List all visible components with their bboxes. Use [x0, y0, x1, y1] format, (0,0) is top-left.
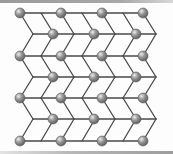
sphere-node-icon — [89, 29, 99, 39]
sphere-node-icon — [48, 29, 58, 39]
sphere-node-icon — [97, 93, 107, 103]
sphere-node-icon — [56, 8, 66, 18]
sphere-node-icon — [131, 72, 141, 82]
sphere-node-icon — [131, 29, 141, 39]
lattice-diagram — [0, 0, 173, 154]
sphere-node-icon — [131, 114, 141, 124]
sphere-node-icon — [138, 51, 148, 61]
sphere-node-icon — [15, 136, 25, 146]
sphere-node-icon — [97, 136, 107, 146]
bottom-border-bar — [0, 151, 173, 154]
sphere-node-icon — [48, 72, 58, 82]
sphere-node-icon — [56, 93, 66, 103]
sphere-node-icon — [97, 51, 107, 61]
diagram-frame — [0, 0, 173, 154]
sphere-node-icon — [89, 72, 99, 82]
sphere-node-icon — [138, 8, 148, 18]
sphere-node-icon — [138, 136, 148, 146]
sphere-node-icon — [48, 114, 58, 124]
sphere-node-icon — [15, 51, 25, 61]
sphere-node-icon — [15, 8, 25, 18]
sphere-node-icon — [138, 93, 148, 103]
sphere-node-icon — [89, 114, 99, 124]
sphere-node-icon — [56, 136, 66, 146]
sphere-node-icon — [97, 8, 107, 18]
sphere-node-icon — [15, 93, 25, 103]
sphere-node-icon — [56, 51, 66, 61]
